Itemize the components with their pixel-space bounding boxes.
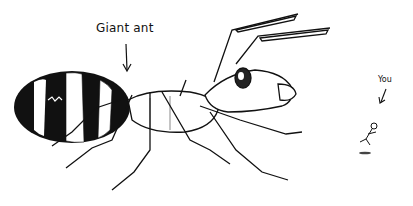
you-arrow-icon xyxy=(379,89,386,103)
illustration-canvas: Giant ant You xyxy=(0,0,413,206)
ant-head xyxy=(205,68,296,112)
ant-antennae xyxy=(214,14,330,82)
drawing xyxy=(0,0,413,206)
tiny-person-figure xyxy=(359,123,377,154)
giant-ant-arrow-icon xyxy=(123,44,131,71)
